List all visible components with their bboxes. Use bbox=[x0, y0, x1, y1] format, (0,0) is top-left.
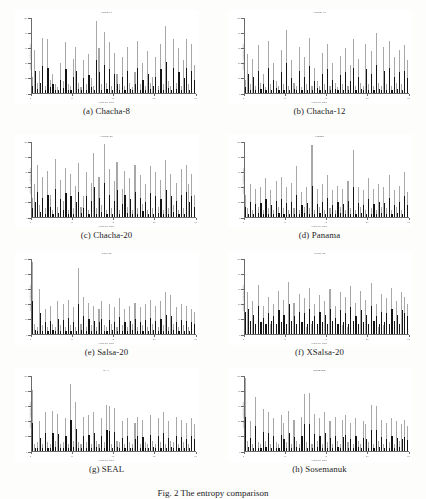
y-tick: 40 bbox=[241, 421, 243, 422]
bar-dark bbox=[337, 324, 338, 335]
bar-dark bbox=[194, 439, 195, 451]
bar-dark bbox=[42, 448, 43, 451]
bar-dark bbox=[70, 90, 71, 93]
bar-dark bbox=[260, 203, 261, 217]
bar-dark bbox=[337, 447, 338, 452]
bar-dark bbox=[281, 435, 282, 452]
bar-dark bbox=[45, 90, 46, 93]
bar-dark bbox=[40, 313, 41, 334]
chart-title: SEAL bbox=[15, 369, 199, 373]
bar-dark bbox=[381, 213, 382, 218]
bar-dark bbox=[250, 438, 251, 452]
bar-dark bbox=[142, 331, 143, 335]
bar-dark bbox=[397, 315, 398, 335]
bar-dark bbox=[76, 429, 77, 452]
bar-dark bbox=[281, 322, 282, 334]
bar-dark bbox=[301, 205, 302, 217]
x-tick bbox=[154, 218, 155, 220]
bar-dark bbox=[101, 212, 102, 217]
bar-dark bbox=[376, 316, 377, 334]
bar-dark bbox=[132, 448, 133, 451]
bar-dark bbox=[104, 448, 105, 452]
x-axis-label: Sequence index bbox=[15, 101, 199, 104]
y-tick: 60 bbox=[241, 406, 243, 407]
bar-dark bbox=[283, 214, 284, 218]
bar-dark bbox=[106, 430, 107, 451]
y-tick-label: 80 bbox=[25, 272, 27, 274]
y-tick-label: 100 bbox=[237, 257, 240, 259]
bar-dark bbox=[276, 88, 277, 93]
subfigure-caption: (f) XSalsa-20 bbox=[295, 347, 344, 357]
bar-dark bbox=[55, 189, 56, 218]
bar-dark bbox=[104, 331, 105, 335]
bar-dark bbox=[112, 214, 113, 218]
bar-dark bbox=[363, 438, 364, 452]
bar-dark bbox=[104, 65, 105, 94]
bar-dark bbox=[35, 71, 36, 94]
bar-dark bbox=[176, 89, 177, 94]
bar-dark bbox=[291, 78, 292, 93]
bar-dark bbox=[145, 202, 146, 217]
bar-dark bbox=[106, 331, 107, 334]
bar-dark bbox=[268, 214, 269, 218]
y-tick-label: 80 bbox=[25, 155, 27, 157]
bar-dark bbox=[281, 199, 282, 218]
bar-dark bbox=[78, 448, 79, 452]
chart-title: Salsa-20 bbox=[15, 252, 199, 256]
y-tick-label: 40 bbox=[238, 420, 240, 422]
bar-dark bbox=[384, 322, 385, 334]
x-tick-label: 48 bbox=[366, 221, 368, 223]
y-tick-label: 40 bbox=[25, 420, 27, 422]
bar-dark bbox=[37, 448, 38, 452]
bar-dark bbox=[248, 214, 249, 218]
bar-dark bbox=[379, 324, 380, 335]
plot-axes: 020406080100016324864 bbox=[244, 18, 409, 94]
bar-dark bbox=[140, 90, 141, 94]
bar-dark bbox=[301, 90, 302, 93]
x-axis-label: Sequence index bbox=[228, 459, 412, 462]
bar-dark bbox=[155, 321, 156, 335]
x-tick bbox=[31, 218, 32, 220]
bar-dark bbox=[407, 205, 408, 217]
bar-dark bbox=[368, 199, 369, 217]
y-tick-label: 80 bbox=[25, 389, 27, 391]
chart-a: Chacha-8 Entropy / Frequency value Seque… bbox=[15, 10, 199, 104]
x-tick-label: 64 bbox=[407, 221, 409, 223]
bar-dark bbox=[78, 192, 79, 218]
bar-dark bbox=[253, 315, 254, 335]
bar-dark bbox=[386, 90, 387, 94]
bar-dark bbox=[45, 214, 46, 218]
bar-dark bbox=[337, 90, 338, 93]
bar-dark bbox=[294, 89, 295, 94]
bar-dark bbox=[189, 331, 190, 334]
bar-dark bbox=[160, 69, 161, 93]
bar-dark bbox=[60, 199, 61, 217]
bar-dark bbox=[160, 199, 161, 217]
x-tick-label: 48 bbox=[153, 338, 155, 340]
bar-dark bbox=[137, 68, 138, 94]
bar-dark bbox=[83, 208, 84, 218]
x-tick-label: 64 bbox=[407, 97, 409, 99]
bar-dark bbox=[304, 424, 305, 451]
chart-title: Chacha-12 bbox=[228, 11, 412, 15]
bar-dark bbox=[309, 309, 310, 335]
bar-dark bbox=[404, 313, 405, 334]
x-tick bbox=[154, 335, 155, 337]
y-tick: 20 bbox=[28, 202, 30, 203]
bar-dark bbox=[194, 324, 195, 335]
y-tick-label: 0 bbox=[26, 333, 27, 335]
bar-dark bbox=[245, 87, 246, 93]
bar-dark bbox=[91, 87, 92, 94]
bar-layer bbox=[31, 18, 195, 93]
bar-dark bbox=[283, 439, 284, 452]
bar-dark bbox=[389, 324, 390, 335]
bar-dark bbox=[350, 81, 351, 94]
bar-layer bbox=[31, 376, 195, 451]
bar-dark bbox=[68, 448, 69, 451]
y-tick: 20 bbox=[241, 319, 243, 320]
bar-dark bbox=[109, 431, 110, 451]
bar-dark bbox=[166, 190, 167, 217]
chart-e: Salsa-20 Entropy / Frequency value Seque… bbox=[15, 251, 199, 345]
bar-dark bbox=[96, 60, 97, 93]
plot-axes: 020406080100016324864 bbox=[244, 376, 409, 452]
